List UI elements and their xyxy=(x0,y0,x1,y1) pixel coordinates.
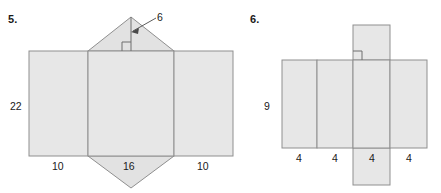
band-face-2 xyxy=(317,60,353,148)
band-face-1 xyxy=(282,60,317,148)
dimension-label-width-2: 4 xyxy=(332,153,338,164)
dimension-label-width-4: 4 xyxy=(406,153,412,164)
dimension-label-width-3: 4 xyxy=(369,153,375,164)
band-face-3 xyxy=(353,60,390,148)
worksheet-figure-page: 5. 22 10 16 10 6 6. xyxy=(0,0,441,193)
band-face-4 xyxy=(390,60,427,148)
problem-6-drawing xyxy=(0,0,441,193)
dimension-label-height-9: 9 xyxy=(264,101,270,112)
dimension-label-width-1: 4 xyxy=(296,153,302,164)
top-flap-face xyxy=(353,25,390,60)
